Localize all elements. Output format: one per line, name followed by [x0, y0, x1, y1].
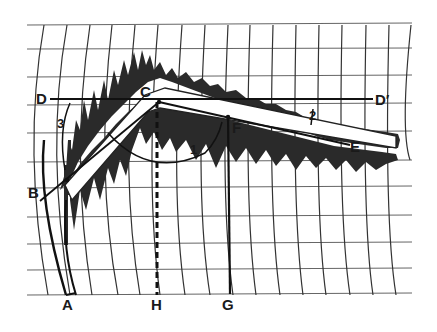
label-g: G [222, 296, 234, 313]
label-h: H [151, 296, 162, 313]
label-d: D [36, 90, 47, 107]
label-angle-1: 1 [190, 142, 197, 157]
curve-a [43, 140, 66, 295]
label-e: E [350, 138, 360, 155]
label-f: F [232, 119, 241, 136]
label-angle-3: 3 [57, 116, 64, 131]
label-angle-2: 2 [309, 108, 316, 123]
label-c: C [140, 83, 151, 100]
label-a: A [62, 296, 73, 313]
diagram-canvas: A B C D D′ E F G H 1 2 3 [0, 0, 437, 332]
label-b: B [28, 184, 39, 201]
label-d-prime: D′ [375, 91, 390, 108]
